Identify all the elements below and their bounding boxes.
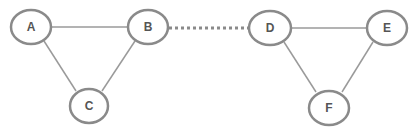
node-c[interactable]: C — [70, 89, 108, 123]
node-f-label: F — [325, 101, 332, 115]
node-b[interactable]: B — [128, 10, 168, 44]
graph-diagram: A B C D E F — [0, 0, 414, 135]
edge-b-c — [102, 41, 135, 91]
node-c-label: C — [85, 99, 94, 113]
node-a-label: A — [27, 20, 36, 34]
node-e[interactable]: E — [367, 11, 407, 45]
edges — [44, 27, 373, 92]
edge-a-c — [44, 41, 76, 91]
node-d-label: D — [266, 21, 275, 35]
node-d[interactable]: D — [249, 11, 291, 45]
node-b-label: B — [144, 20, 153, 34]
edge-d-f — [284, 42, 316, 92]
node-a[interactable]: A — [11, 10, 51, 44]
edge-e-f — [342, 42, 373, 92]
graph-svg: A B C D E F — [0, 0, 414, 135]
node-e-label: E — [383, 21, 391, 35]
node-f[interactable]: F — [309, 91, 349, 125]
